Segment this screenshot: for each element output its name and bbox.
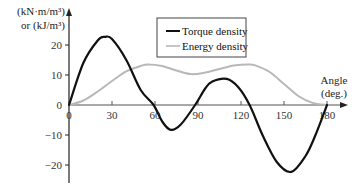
y-tick-label: 0 (57, 99, 63, 111)
legend: Torque densityEnergy density (157, 18, 249, 57)
y-axis-label-line1: (kN·m/m³) (17, 5, 65, 18)
chart: 20100−10−200306090120150180(kN·m/m³)or (… (0, 0, 362, 190)
x-tick-label: 30 (107, 109, 119, 121)
y-axis-arrow-icon (66, 8, 72, 16)
y-axis-label-line2: or (kJ/m³) (21, 19, 65, 32)
x-tick-label: 150 (276, 109, 293, 121)
x-tick-label: 0 (66, 109, 72, 121)
x-axis-arrow-icon (340, 102, 348, 108)
legend-label: Torque density (182, 25, 248, 37)
y-tick-label: −20 (45, 159, 63, 171)
x-axis-label-line1: Angle (321, 74, 348, 86)
x-tick-label: 90 (193, 109, 205, 121)
legend-label: Energy density (182, 40, 249, 52)
x-axis-label-line2: (deg.) (321, 87, 347, 100)
y-tick-label: −10 (45, 129, 63, 141)
y-tick-label: 10 (51, 69, 63, 81)
y-tick-label: 20 (51, 39, 63, 51)
x-tick-label: 120 (233, 109, 250, 121)
